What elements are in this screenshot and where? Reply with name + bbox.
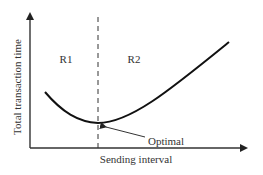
region-label-r1: R1	[60, 53, 73, 65]
x-axis-label: Sending interval	[100, 153, 172, 165]
diagram-canvas: Total transaction time Sending interval …	[0, 0, 263, 175]
optimal-label: Optimal	[148, 135, 184, 147]
optimal-pointer-arrow	[106, 127, 145, 137]
y-axis-label: Total transaction time	[11, 39, 23, 135]
region-label-r2: R2	[128, 53, 141, 65]
